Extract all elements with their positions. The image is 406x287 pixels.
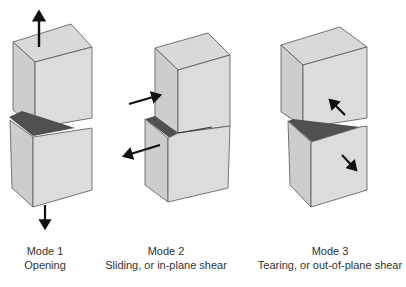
mode-2-lower-front-face (168, 126, 230, 202)
mode-3-name: Mode 3 (258, 244, 402, 258)
mode-3-label: Mode 3 Tearing, or out-of-plane shear (258, 244, 402, 272)
mode-3-description: Tearing, or out-of-plane shear (258, 258, 402, 272)
mode-3-specimen (281, 27, 367, 207)
mode-2-description: Sliding, or in-plane shear (105, 258, 227, 272)
mode-1-name: Mode 1 (24, 244, 66, 258)
mode-2-name: Mode 2 (105, 244, 227, 258)
mode-1-lower-block (10, 120, 92, 207)
mode-2-specimen (124, 33, 230, 202)
mode-1-specimen (9, 12, 92, 228)
mode-2-upper-block (155, 33, 230, 133)
mode-1-label: Mode 1 Opening (24, 244, 66, 272)
mode-3-upper-block (281, 27, 367, 128)
mode-1-description: Opening (24, 258, 66, 272)
mode-2-label: Mode 2 Sliding, or in-plane shear (105, 244, 227, 272)
mode-1-lower-front-face (33, 128, 92, 207)
mode-2-lower-block (145, 119, 230, 202)
